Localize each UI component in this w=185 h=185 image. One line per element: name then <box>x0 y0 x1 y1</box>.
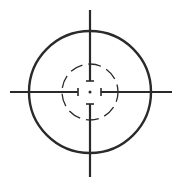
crosshair-icon <box>0 0 185 185</box>
crosshair-icon-canvas <box>0 0 185 185</box>
center-dot <box>89 91 92 94</box>
